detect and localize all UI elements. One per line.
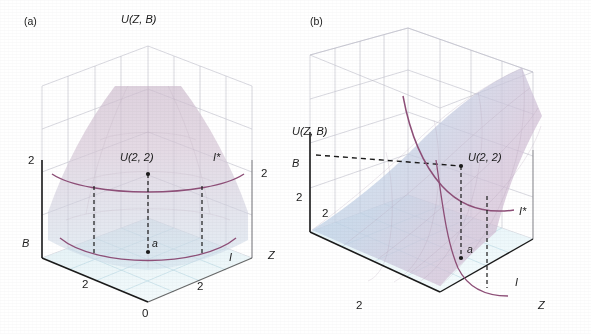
panel-b: (b) U(Z, B) 2 2 2 Z B U(2, 2) I* a I — [290, 0, 591, 334]
axis-label-b-a: B — [22, 238, 29, 249]
axis-label-z-a: Z — [268, 250, 275, 261]
point-u22-a — [146, 172, 150, 176]
panel-a: (a) U(Z, B) 2 B 2 Z 2 0 2 U(2, 2) I* a I — [0, 0, 296, 334]
point-u22-b — [459, 164, 463, 168]
figure-container: (a) U(Z, B) 2 B 2 Z 2 0 2 U(2, 2) I* a I — [0, 0, 591, 334]
label-point-a-b: a — [467, 244, 473, 255]
label-u22-a: U(2, 2) — [120, 152, 154, 163]
point-a-b — [459, 256, 463, 260]
label-i-star-a: I* — [213, 152, 220, 163]
tick-outer-2-b: 2 — [296, 192, 302, 204]
label-i-b: I — [515, 277, 518, 288]
axis-label-z-b: Z — [538, 300, 545, 311]
tick-inner-2-b: 2 — [322, 208, 328, 220]
tick-base-right-2-a: 2 — [197, 281, 203, 293]
panel-b-id: (b) — [310, 16, 323, 27]
tick-b-2-a: 2 — [28, 155, 34, 167]
tick-origin-0-a: 0 — [142, 308, 148, 320]
surface-label-a: U(Z, B) — [121, 14, 156, 25]
label-u22-b: U(2, 2) — [468, 152, 502, 163]
panel-a-graphic — [0, 0, 296, 334]
tick-base-left-2-a: 2 — [82, 279, 88, 291]
panel-a-id: (a) — [24, 16, 37, 27]
label-budget-b: B — [292, 158, 299, 169]
label-point-a-a: a — [152, 238, 158, 249]
label-i-a: I — [229, 252, 232, 263]
label-i-star-b: I* — [519, 206, 526, 217]
point-a-a — [146, 250, 150, 254]
surface-label-b: U(Z, B) — [292, 126, 327, 137]
panel-b-graphic — [290, 0, 591, 334]
tick-right-2-a: 2 — [261, 168, 267, 180]
tick-base-2-b: 2 — [356, 300, 362, 312]
